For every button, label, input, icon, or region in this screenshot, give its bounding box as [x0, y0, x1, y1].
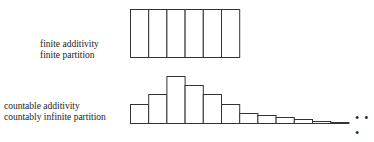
finite-partition-cell — [131, 10, 149, 58]
histogram-bar — [185, 86, 203, 124]
finite-partition-cell — [167, 10, 185, 58]
histogram-bar — [240, 114, 258, 124]
histogram-bar — [294, 120, 312, 124]
ellipsis: • • • — [355, 111, 374, 141]
histogram-bar — [258, 116, 276, 124]
finite-partition-cell — [149, 10, 167, 58]
histogram-bar — [149, 95, 167, 124]
finite-partition-cell — [185, 10, 203, 58]
histogram-bar — [222, 105, 240, 124]
histogram-bar — [276, 118, 294, 124]
histogram-bar — [131, 105, 149, 124]
finite-partition-cell — [222, 10, 240, 58]
histogram-bar — [167, 77, 185, 124]
partition-figure — [0, 0, 374, 142]
histogram-bar — [203, 95, 221, 124]
diagram-canvas: finite additivity finite partition count… — [0, 0, 374, 142]
finite-partition-cell — [203, 10, 221, 58]
